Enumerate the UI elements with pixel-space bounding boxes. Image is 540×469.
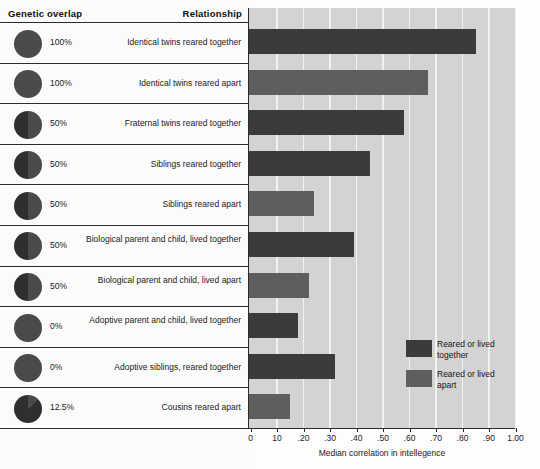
genetic-overlap-pie-icon — [14, 30, 42, 58]
relationship-label: Siblings reared apart — [61, 199, 241, 211]
bar-together — [249, 151, 370, 176]
bar-row — [249, 144, 515, 185]
plot-area: Reared or lived together Reared or lived… — [249, 8, 515, 428]
relationship-label: Adoptive siblings, reared together — [61, 362, 241, 374]
bar-together — [249, 29, 476, 54]
genetic-overlap-pie-icon — [14, 192, 42, 220]
genetic-overlap-pie-icon — [14, 395, 42, 423]
relationship-table-panel: Genetic overlap Relationship 100%Identic… — [0, 0, 249, 469]
x-axis-line — [249, 428, 515, 429]
relationship-label: Adoptive parent and child, lived togethe… — [61, 315, 241, 327]
bar-apart — [249, 394, 290, 419]
bar-row — [249, 184, 515, 225]
table-row: 50%Fraternal twins reared together — [0, 103, 249, 144]
axis-tick — [436, 428, 437, 432]
bar-row — [249, 266, 515, 307]
legend-item-together: Reared or lived together — [406, 340, 510, 370]
table-row: 50%Biological parent and child, lived to… — [0, 225, 249, 266]
axis-tick-label: 1.00 — [507, 433, 524, 443]
bar-row — [249, 63, 515, 104]
gridline — [515, 8, 516, 428]
bar-row — [249, 103, 515, 144]
relationship-label: Fraternal twins reared together — [61, 118, 241, 130]
axis-tick-label: .70 — [430, 433, 442, 443]
axis-tick — [357, 428, 358, 432]
axis-tick — [463, 428, 464, 432]
table-row: 100%Identical twins reared apart — [0, 63, 249, 104]
legend: Reared or lived together Reared or lived… — [406, 340, 510, 400]
axis-tick — [251, 428, 252, 432]
bar-row — [249, 22, 515, 63]
axis-tick — [304, 428, 305, 432]
relationship-rows: 100%Identical twins reared together100%I… — [0, 22, 249, 428]
axis-tick-label: .30 — [324, 433, 336, 443]
genetic-overlap-pie-icon — [14, 111, 42, 139]
table-row: 100%Identical twins reared together — [0, 22, 249, 63]
axis-tick-label: .80 — [457, 433, 469, 443]
legend-swatch-apart — [406, 370, 432, 387]
x-axis-title: Median correlation in intellegence — [249, 448, 515, 458]
column-header-genetic-overlap: Genetic overlap — [8, 8, 82, 19]
genetic-overlap-pie-icon — [14, 151, 42, 179]
x-axis: Median correlation in intellegence 010.2… — [249, 428, 515, 469]
table-row: 50%Siblings reared apart — [0, 184, 249, 225]
axis-tick-label: 10 — [272, 433, 281, 443]
bar-apart — [249, 191, 314, 216]
relationship-label: Identical twins reared apart — [61, 78, 241, 90]
table-row: 50%Siblings reared together — [0, 144, 249, 185]
genetic-overlap-pie-icon — [14, 70, 42, 98]
bar-apart — [249, 70, 428, 95]
axis-tick — [489, 428, 490, 432]
genetic-overlap-correlation-chart: Genetic overlap Relationship 100%Identic… — [0, 0, 540, 469]
table-row: 50%Biological parent and child, lived ap… — [0, 266, 249, 307]
bar-row — [249, 225, 515, 266]
genetic-overlap-pie-icon — [14, 273, 42, 301]
axis-tick-label: .40 — [351, 433, 363, 443]
bar-apart — [249, 273, 309, 298]
axis-tick-label: .50 — [377, 433, 389, 443]
legend-item-apart: Reared or lived apart — [406, 370, 510, 400]
relationship-label: Biological parent and child, lived apart — [61, 275, 241, 287]
bar-together — [249, 110, 404, 135]
axis-tick — [383, 428, 384, 432]
relationship-label: Siblings reared together — [61, 159, 241, 171]
table-row: 12.5%Cousins reared apart — [0, 387, 249, 428]
table-row: 0%Adoptive parent and child, lived toget… — [0, 306, 249, 347]
relationship-label: Identical twins reared together — [61, 37, 241, 49]
column-header-relationship: Relationship — [130, 8, 242, 19]
relationship-label: Cousins reared apart — [61, 402, 241, 414]
axis-tick — [410, 428, 411, 432]
relationship-label: Biological parent and child, lived toget… — [61, 234, 241, 246]
legend-label-together: Reared or lived together — [437, 339, 509, 360]
axis-tick-label: .60 — [404, 433, 416, 443]
bar-together — [249, 313, 298, 338]
genetic-overlap-pie-icon — [14, 314, 42, 342]
axis-tick — [330, 428, 331, 432]
bar-together — [249, 232, 354, 257]
genetic-overlap-pie-icon — [14, 232, 42, 260]
legend-swatch-together — [406, 340, 432, 357]
axis-tick — [516, 428, 517, 432]
genetic-overlap-pie-icon — [14, 354, 42, 382]
bar-together — [249, 354, 335, 379]
axis-tick-label: 0 — [248, 433, 253, 443]
table-row: 0%Adoptive siblings, reared together — [0, 347, 249, 388]
axis-tick-label: .90 — [483, 433, 495, 443]
table-bottom-rule — [0, 428, 249, 429]
axis-tick-label: .20 — [298, 433, 310, 443]
legend-label-apart: Reared or lived apart — [437, 369, 509, 390]
axis-tick — [277, 428, 278, 432]
